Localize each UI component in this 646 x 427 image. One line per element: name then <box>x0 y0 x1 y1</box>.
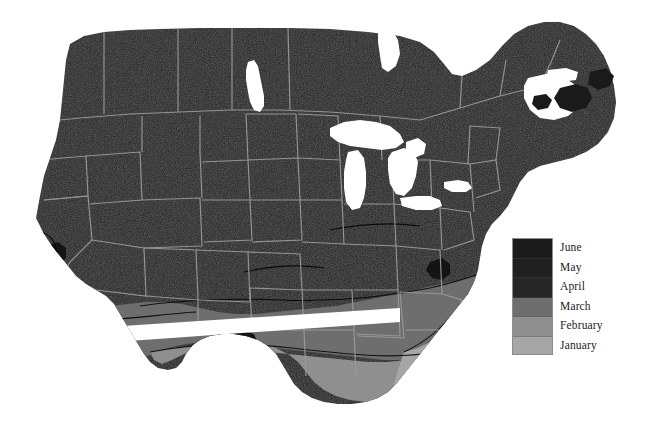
legend-label-march: March <box>560 297 640 317</box>
legend-label-january: January <box>560 336 640 356</box>
legend-label-april: April <box>560 277 640 297</box>
legend-swatch-may <box>513 259 552 279</box>
legend-swatch-april <box>513 278 552 298</box>
legend-label-june: June <box>560 238 640 258</box>
lake-michigan <box>344 150 366 210</box>
legend-label-may: May <box>560 258 640 278</box>
legend-swatch-column <box>512 238 553 355</box>
legend-label-column: June May April March February January <box>560 238 640 355</box>
legend-swatch-february <box>513 317 552 337</box>
legend-swatch-june <box>513 239 552 259</box>
legend-swatch-january <box>513 337 552 356</box>
legend-swatch-march <box>513 298 552 318</box>
month-legend: June May April March February January <box>512 238 640 356</box>
legend-label-february: February <box>560 316 640 336</box>
north-america-map <box>0 0 646 427</box>
frost-date-map-figure: Average date of last spring freeze <box>0 0 646 427</box>
lake-okeechobee <box>425 386 430 391</box>
